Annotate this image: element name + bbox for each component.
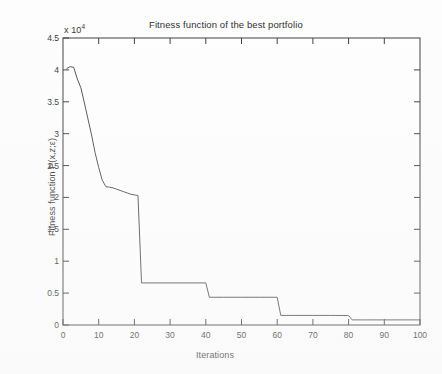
- x-tick-label: 0: [61, 330, 66, 340]
- y-tick-label: 3.5: [30, 97, 59, 107]
- x-tick-label: 100: [413, 330, 427, 340]
- x-tick-label: 30: [165, 330, 174, 340]
- plot-canvas: [0, 0, 442, 374]
- y-tick-label: 0.5: [30, 288, 59, 298]
- exponent-base: x 10: [64, 25, 81, 35]
- y-tick-label: 3: [30, 129, 59, 139]
- x-tick-label: 90: [380, 330, 389, 340]
- y-tick-label: 2.5: [30, 161, 59, 171]
- chart-screenshot: Fitness function of the best portfolio x…: [0, 0, 442, 374]
- exponent-power: 4: [81, 23, 85, 30]
- y-tick-label: 4.5: [30, 33, 59, 43]
- chart-title: Fitness function of the best portfolio: [149, 19, 303, 30]
- y-tick-label: 2: [30, 192, 59, 202]
- x-tick-label: 10: [94, 330, 103, 340]
- x-tick-label: 60: [272, 330, 281, 340]
- x-axis-label: Iterations: [196, 350, 234, 360]
- x-tick-label: 80: [344, 330, 353, 340]
- y-tick-label: 1.5: [30, 224, 59, 234]
- plot-background: [63, 38, 420, 325]
- y-tick-label: 0: [30, 320, 59, 330]
- y-tick-label: 1: [30, 256, 59, 266]
- x-tick-label: 70: [308, 330, 317, 340]
- x-tick-label: 20: [130, 330, 139, 340]
- y-axis-exponent-label: x 104: [64, 23, 85, 35]
- matlab-figure: Fitness function of the best portfolio x…: [0, 0, 442, 374]
- x-tick-label: 50: [237, 330, 246, 340]
- x-tick-label: 40: [201, 330, 210, 340]
- y-tick-label: 4: [30, 65, 59, 75]
